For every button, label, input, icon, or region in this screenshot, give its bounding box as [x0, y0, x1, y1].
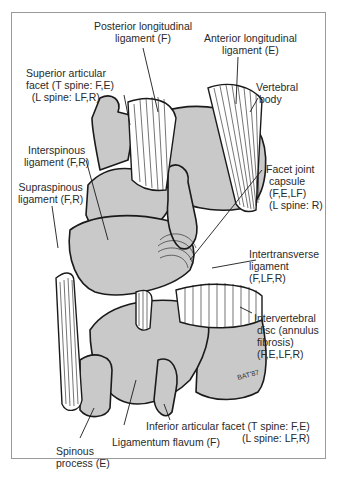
- label-posterior-longitudinal-ligament: Posterior longitudinalligament (F): [94, 20, 192, 44]
- label-supraspinous-ligament: Supraspinousligament (F,R): [18, 181, 83, 205]
- spinous-process: [80, 355, 112, 417]
- label-ligamentum-flavum: Ligamentum flavum (F): [112, 436, 220, 448]
- label-vertebral-body: Vertebral body: [256, 81, 298, 105]
- leader-supraspinous: [52, 206, 58, 248]
- label-superior-articular-facet: Superior articularfacet (T spine: F,E) (…: [26, 67, 114, 103]
- ligamentum-flavum: [136, 290, 152, 330]
- label-anterior-longitudinal-ligament: Anterior longitudinalligament (E): [204, 32, 297, 56]
- label-intervertebral-disc: Intervertebral disc (annulus fibrosis) (…: [254, 312, 319, 360]
- label-spinous-process: Spinousprocess (E): [56, 445, 110, 469]
- label-interspinous-ligament: Interspinousligament (F,R): [24, 144, 89, 168]
- label-intertransverse-ligament: Intertransverseligament(F,LF,R): [249, 248, 319, 284]
- label-facet-joint-capsule: Facet joint capsule (F,E,LF) (L spine: R…: [266, 163, 323, 211]
